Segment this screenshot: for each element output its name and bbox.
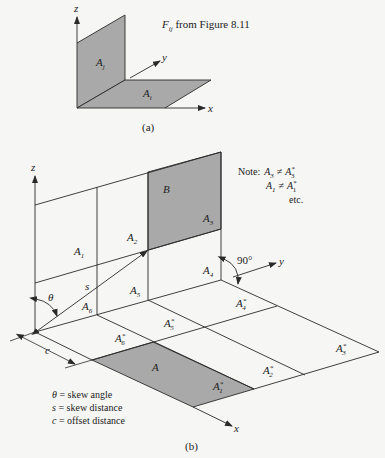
surface-b	[148, 152, 221, 250]
caption-a: (a)	[142, 121, 155, 134]
caption-b: (b)	[185, 440, 198, 453]
figure-a: z y x Aj Ai Fij from Figure 8.11 (a)	[73, 2, 250, 134]
svg-text:θ = skew angle: θ = skew angle	[52, 389, 113, 400]
label-a5-star: A*5	[163, 317, 175, 332]
svg-text:etc.: etc.	[289, 194, 303, 205]
fij-title: Fij from Figure 8.11	[161, 18, 250, 33]
x-label-a: x	[207, 102, 213, 114]
svg-text:A1≠A*1: A1≠A*1	[265, 179, 297, 194]
label-a6-star: A*6	[114, 332, 126, 347]
label-b: B	[163, 183, 170, 195]
label-a: A	[151, 361, 159, 373]
label-a2-star: A*2	[262, 364, 274, 379]
theta-label: θ	[48, 291, 54, 303]
label-a2: A2	[126, 231, 138, 246]
label-a6: A6	[81, 300, 93, 315]
y-label-a: y	[161, 51, 167, 63]
figure-b: z x y 90° s θ c	[10, 152, 379, 453]
label-a1: A1	[73, 245, 84, 260]
svg-text:Note:A3≠A*3: Note:A3≠A*3	[238, 165, 295, 180]
label-a4-star: A*4	[235, 297, 247, 312]
y-label-b: y	[278, 255, 284, 267]
offset-label: c	[45, 344, 50, 356]
note-block: Note:A3≠A*3 A1≠A*1 etc.	[238, 165, 303, 205]
x-axis-b	[193, 407, 232, 426]
angle-90-label: 90°	[237, 254, 252, 266]
label-a3-star: A*3	[335, 342, 347, 357]
x-label-b: x	[233, 422, 239, 434]
view-factor-diagram: z y x Aj Ai Fij from Figure 8.11 (a) z	[0, 0, 385, 458]
label-a4: A4	[202, 264, 214, 279]
z-label-b: z	[30, 161, 36, 173]
svg-text:c = offset distance: c = offset distance	[52, 415, 126, 426]
label-a5: A5	[129, 284, 141, 299]
theta-arc	[36, 299, 57, 316]
surface-a	[92, 342, 254, 407]
z-label-a: z	[73, 2, 79, 14]
skew-label: s	[85, 280, 89, 292]
y-axis-a	[130, 61, 160, 78]
svg-text:s = skew distance: s = skew distance	[52, 402, 123, 413]
legend: θ = skew angle s = skew distance c = off…	[52, 389, 126, 426]
